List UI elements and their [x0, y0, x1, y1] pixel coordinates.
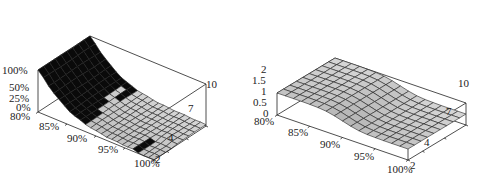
z-axis-labels: 100% 50% 25% 0% [2, 64, 31, 113]
y-axis-tick [444, 138, 446, 139]
x-tick-85: 85% [288, 126, 308, 138]
y-tick-7: 7 [446, 105, 452, 117]
surface-plot-right-canvas: 2 1.5 1 0.5 0 80% 85% 90% 95% 100% 2 4 7… [240, 0, 479, 181]
y-axis-tick [466, 125, 468, 126]
x-tick-80: 80% [10, 110, 30, 122]
surface-mesh [38, 36, 206, 160]
y-tick-2: 2 [155, 153, 161, 165]
y-axis-tick [423, 151, 425, 152]
x-tick-90: 90% [320, 138, 340, 150]
y-axis-tick [167, 152, 169, 153]
y-tick-10: 10 [206, 78, 218, 90]
surface-plot-left: 100% 50% 25% 0% 80% 85% 90% 95% 100% 2 4… [0, 0, 240, 181]
y-tick-4: 4 [168, 131, 174, 143]
y-axis-tick [187, 139, 189, 140]
x-tick-80: 80% [254, 115, 274, 127]
surface-plot-right: 2 1.5 1 0.5 0 80% 85% 90% 95% 100% 2 4 7… [240, 0, 479, 181]
y-tick-7: 7 [188, 102, 194, 114]
x-tick-90: 90% [67, 132, 87, 144]
y-tick-4: 4 [424, 136, 430, 148]
y-tick-10: 10 [458, 77, 470, 89]
x-tick-95: 95% [354, 150, 374, 162]
y-tick-2: 2 [410, 159, 416, 171]
y-axis-tick [206, 126, 208, 127]
x-axis-tick [36, 112, 38, 114]
z-tick-100: 100% [2, 64, 28, 76]
surface-plot-left-canvas: 100% 50% 25% 0% 80% 85% 90% 95% 100% 2 4… [0, 0, 240, 181]
x-tick-100: 100% [387, 163, 413, 175]
x-tick-85: 85% [39, 120, 59, 132]
x-axis-tick [275, 115, 277, 117]
x-tick-95: 95% [98, 143, 118, 155]
z-axis-labels: 2 1.5 1 0.5 0 [252, 63, 269, 119]
